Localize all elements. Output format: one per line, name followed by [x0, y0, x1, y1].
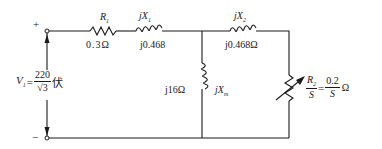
- xm-symbol-label: jXm: [215, 85, 228, 97]
- source-voltage-label: V1 = 220 √3 伏: [16, 70, 63, 93]
- variable-resistor-r2-symbol: [285, 75, 293, 101]
- source-voltage-fraction: 220 √3: [34, 70, 51, 93]
- r2-rhs-fraction: 0.2 S: [325, 76, 340, 99]
- r1-symbol-label: R1: [100, 12, 109, 24]
- voltage-arrow-up-icon: [45, 34, 50, 43]
- top-wire-right: [256, 31, 289, 75]
- r1-value-label: 0.3Ω: [86, 40, 110, 50]
- x1-value-label: j0.468: [140, 40, 165, 50]
- r2-load-label: R2 S = 0.2 S Ω: [306, 75, 349, 100]
- inductor-xm-symbol: [202, 63, 209, 89]
- xm-value-label: j16Ω: [165, 85, 185, 95]
- inductor-x2-symbol: [230, 25, 256, 32]
- plus-terminal-label: +: [33, 19, 39, 30]
- x1-symbol-label: jX1: [139, 11, 151, 23]
- terminal-bottom: [45, 136, 49, 140]
- inductor-x1-symbol: [136, 25, 162, 32]
- minus-terminal-label: −: [32, 132, 38, 143]
- terminal-top: [45, 29, 49, 33]
- voltage-arrow-down-icon: [45, 127, 50, 136]
- variable-arrow-head-icon: [296, 76, 305, 85]
- r2-lhs-fraction: R2 S: [306, 75, 317, 100]
- resistor-r1-symbol: [90, 27, 116, 35]
- x2-value-label: j0.468Ω: [225, 40, 258, 50]
- x2-symbol-label: jX2: [234, 11, 246, 23]
